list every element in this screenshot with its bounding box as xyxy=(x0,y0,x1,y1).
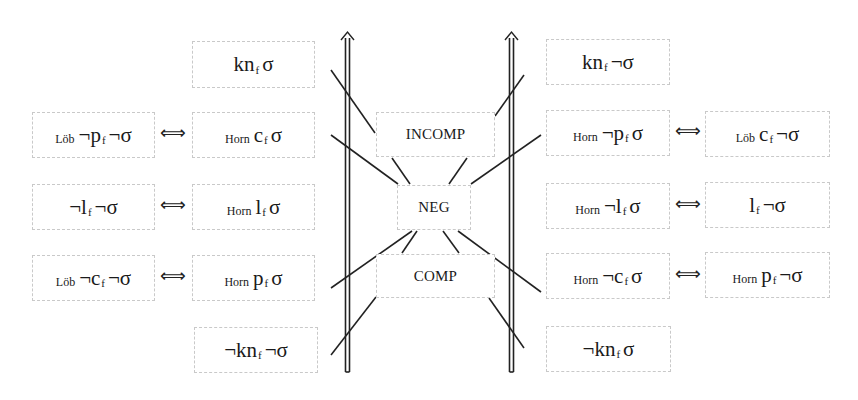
formula-box-horn-p-sigma: Horn p f σ xyxy=(192,255,315,301)
formula-main: c xyxy=(254,123,263,148)
formula-prefix: Horn xyxy=(575,203,600,218)
formula-box-not-kn-sigma: ¬kn f σ xyxy=(546,326,671,372)
formula-tail: σ xyxy=(623,337,634,362)
formula-box-horn-l-sigma: Horn l f σ xyxy=(192,184,315,230)
formula-prefix: Horn xyxy=(573,130,598,145)
formula-subscript: f xyxy=(101,277,105,289)
equivalence-icon: ⟺ xyxy=(160,122,186,143)
equivalence-icon: ⟺ xyxy=(160,194,186,215)
equivalence-icon: ⟺ xyxy=(675,120,701,141)
formula-subscript: f xyxy=(258,349,262,361)
formula-box-horn-c-sigma: Horn c f σ xyxy=(192,112,315,158)
formula-tail: ¬σ xyxy=(95,195,118,220)
formula-tail: σ xyxy=(269,195,280,220)
formula-box-lob-not-c-not-sigma: Löb ¬c f ¬σ xyxy=(32,255,155,301)
formula-tail: σ xyxy=(632,121,643,146)
formula-subscript: f xyxy=(773,274,777,286)
formula-prefix: Löb xyxy=(736,131,755,146)
right-arrow-head-icon xyxy=(505,32,518,40)
formula-main: ¬kn xyxy=(583,337,616,362)
formula-main: ¬c xyxy=(602,264,623,289)
formula-tail: ¬σ xyxy=(108,266,131,291)
equivalence-icon: ⟺ xyxy=(675,193,701,214)
formula-box-horn-not-p-sigma: Horn ¬p f σ xyxy=(546,110,670,156)
formula-tail: σ xyxy=(631,264,642,289)
formula-main: ¬p xyxy=(79,123,101,148)
formula-prefix: Horn xyxy=(225,132,250,147)
formula-prefix: Löb xyxy=(56,275,75,290)
formula-main: ¬c xyxy=(79,266,100,291)
formula-box-not-kn-not-sigma: ¬kn f ¬σ xyxy=(194,327,318,373)
formula-subscript: f xyxy=(256,64,260,76)
formula-prefix: Horn xyxy=(224,275,249,290)
formula-tail: ¬σ xyxy=(776,122,799,147)
formula-tail: σ xyxy=(262,52,273,77)
formula-main: kn xyxy=(582,50,603,75)
formula-tail: ¬σ xyxy=(109,123,132,148)
formula-subscript: f xyxy=(264,134,268,146)
formula-prefix: Horn xyxy=(574,273,599,288)
formula-tail: ¬σ xyxy=(763,193,786,218)
formula-subscript: f xyxy=(769,133,773,145)
formula-box-not-l-not-sigma: ¬l f ¬σ xyxy=(32,184,155,230)
formula-box-horn-not-c-sigma: Horn ¬c f σ xyxy=(546,253,670,299)
formula-tail: σ xyxy=(271,266,282,291)
formula-subscript: f xyxy=(616,348,620,360)
formula-box-kn-sigma: kn f σ xyxy=(192,41,315,88)
formula-subscript: f xyxy=(262,206,266,218)
formula-subscript: f xyxy=(265,277,269,289)
formula-tail: ¬σ xyxy=(265,338,288,363)
neg-label: NEG xyxy=(418,199,449,216)
formula-subscript: f xyxy=(756,204,760,216)
formula-tail: ¬σ xyxy=(611,50,634,75)
incomp-label: INCOMP xyxy=(406,126,466,143)
formula-prefix: Horn xyxy=(732,272,757,287)
formula-main: p xyxy=(253,266,264,291)
formula-box-lob-not-p-not-sigma: Löb ¬p f ¬σ xyxy=(32,112,155,158)
formula-box-lob-c-not-sigma: Löb c f ¬σ xyxy=(705,111,830,157)
formula-main: ¬l xyxy=(69,195,87,220)
formula-box-horn-p-not-sigma: Horn p f ¬σ xyxy=(705,252,830,298)
formula-tail: σ xyxy=(271,123,282,148)
formula-box-horn-not-l-sigma: Horn ¬l f σ xyxy=(546,183,670,229)
formula-subscript: f xyxy=(102,134,106,146)
formula-main: l xyxy=(749,193,755,218)
formula-subscript: f xyxy=(604,61,608,73)
formula-box-kn-not-sigma: kn f ¬σ xyxy=(546,39,670,85)
comp-label: COMP xyxy=(414,268,457,285)
formula-subscript: f xyxy=(88,206,92,218)
formula-box-l-not-sigma: l f ¬σ xyxy=(705,182,830,228)
incomp-box: INCOMP xyxy=(376,112,495,157)
formula-main: p xyxy=(761,263,772,288)
formula-prefix: Horn xyxy=(227,204,252,219)
formula-prefix: Löb xyxy=(55,132,74,147)
formula-tail: σ xyxy=(629,194,640,219)
formula-main: ¬l xyxy=(604,194,622,219)
formula-main: ¬p xyxy=(602,121,624,146)
formula-main: kn xyxy=(234,52,255,77)
equivalence-icon: ⟺ xyxy=(160,265,186,286)
formula-subscript: f xyxy=(624,275,628,287)
equivalence-icon: ⟺ xyxy=(675,263,701,284)
formula-main: ¬kn xyxy=(224,338,257,363)
formula-subscript: f xyxy=(623,205,627,217)
left-arrow-head-icon xyxy=(341,32,354,40)
formula-subscript: f xyxy=(625,132,629,144)
comp-box: COMP xyxy=(376,254,495,298)
formula-main: c xyxy=(759,122,768,147)
neg-box: NEG xyxy=(397,185,471,230)
formula-main: l xyxy=(255,195,261,220)
formula-tail: ¬σ xyxy=(779,263,802,288)
